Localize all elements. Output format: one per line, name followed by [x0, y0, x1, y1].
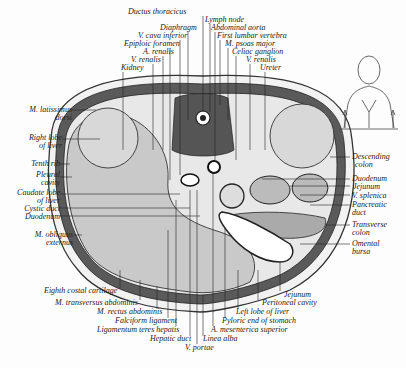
label-cavity: cavity	[2, 179, 60, 187]
label-jejunum-right: Jejunum	[353, 183, 380, 191]
label-v-portae: V. portae	[185, 344, 214, 352]
torso-orientation-icon	[339, 56, 398, 129]
label-eighth-costal-cartilage: Eighth costal cartilage	[44, 287, 117, 295]
label-externus: externus	[2, 239, 73, 247]
v-cava	[181, 174, 199, 186]
label-a-mesenterica-superior: A. mesenterica superior	[211, 326, 288, 334]
label-falciform-ligament: Falciform ligament	[115, 317, 177, 325]
label-colon: colon	[355, 161, 373, 169]
label-bursa: bursa	[352, 248, 370, 256]
label-transverse-colon: colon	[352, 229, 370, 237]
label-left-lobe-of-liver: Left lobe of liver	[236, 308, 289, 316]
right-kidney	[78, 108, 138, 168]
label-peritoneal-cavity: Peritoneal cavity	[262, 299, 317, 307]
duodenum	[220, 184, 244, 208]
label-of-liver: of liver	[2, 142, 62, 150]
label-m-rectus-abdominis: M. rectus abdominis	[97, 308, 162, 316]
label-m-transversus-abdominis: M. transversus abdominis	[55, 299, 138, 307]
label-hepatic-duct: Hepatic duct	[150, 335, 191, 343]
label-dorsi: dorsi	[2, 114, 72, 122]
anatomy-figure: Ductus thoracicus Lymph node Diaphragm A…	[0, 0, 406, 368]
label-linea-alba: Linea alba	[203, 335, 237, 343]
label-duodenum-left: Duodenum	[2, 213, 60, 221]
label-pyloric-end-of-stomach: Pyloric end of stomach	[222, 317, 296, 325]
cross-section-drawing	[0, 0, 406, 368]
label-kidney: Kidney	[121, 64, 144, 72]
left-kidney	[270, 104, 334, 168]
label-duct: duct	[352, 209, 366, 217]
label-tenth-rib: Tenth rib	[2, 160, 60, 168]
label-ductus-thoracicus: Ductus thoracicus	[128, 8, 186, 16]
abdominal-aorta	[208, 161, 220, 173]
label-v-splenica: V. splenica	[352, 192, 387, 200]
label-ligamentum-teres-hepatis: Ligamentum teres hepatis	[97, 326, 179, 334]
label-ureter: Ureter	[260, 64, 281, 72]
